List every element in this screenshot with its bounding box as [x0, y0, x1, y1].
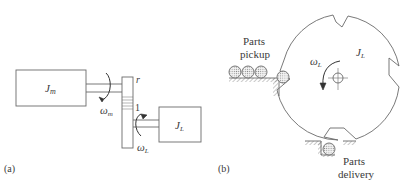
part [255, 66, 267, 78]
disc-inertia-label: JL [356, 46, 365, 60]
part [242, 66, 254, 78]
pickup-label-line2: pickup [240, 48, 270, 60]
gear-plate [122, 77, 133, 148]
delivery-label-line1: Parts [343, 155, 365, 167]
motor-speed-label: ωm [100, 104, 113, 118]
figure: Jm JL ωm ωL r 1 (a) JL [0, 0, 411, 189]
load-speed-label: ωL [137, 141, 149, 155]
part-delivered [323, 143, 335, 155]
delivery-label-line2: delivery [338, 168, 375, 180]
load-rotation-arrow [136, 114, 141, 136]
panel-a-label: (a) [4, 163, 15, 175]
gear-ratio-r: r [136, 74, 140, 85]
motor-rotation-arrow [104, 73, 110, 99]
panel-a [16, 70, 201, 148]
pickup-label-line1: Parts [243, 35, 265, 47]
motor-inertia-label: Jm [45, 82, 56, 96]
gear-ratio-1: 1 [135, 102, 140, 113]
panel-b-label: (b) [218, 163, 230, 175]
disc-speed-label: ωL [310, 55, 322, 69]
load-inertia-label: JL [175, 119, 184, 133]
part-in-slot [277, 71, 289, 83]
part [229, 66, 241, 78]
